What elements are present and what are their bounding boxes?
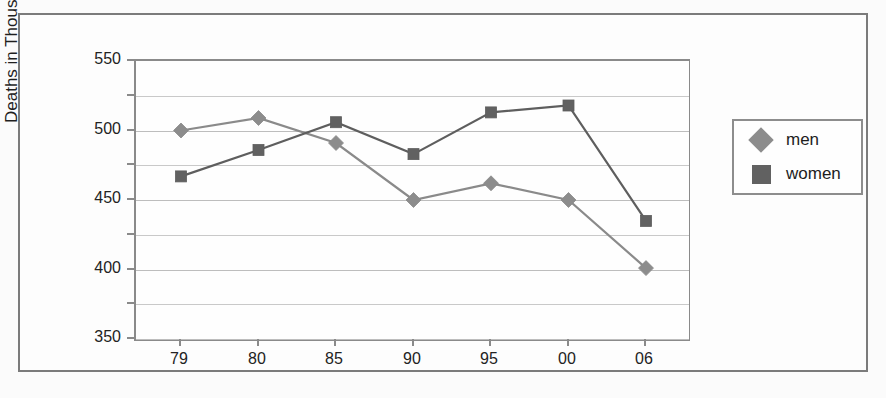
data-point-men (484, 176, 499, 191)
x-axis-tick (412, 339, 414, 346)
data-point-men (251, 111, 266, 126)
legend-item-men[interactable]: men (744, 125, 819, 155)
x-axis-tick (489, 339, 491, 346)
legend-item-women[interactable]: women (744, 159, 841, 189)
chart-legend: men women (732, 119, 863, 195)
data-point-women (563, 100, 574, 111)
data-point-women (176, 171, 187, 182)
plot-area (134, 59, 690, 341)
chart-screenshot: Deaths in Thousands 350400450500550 7980… (0, 0, 886, 398)
y-axis-title: Deaths in Thousands (2, 0, 22, 123)
y-axis-tick (127, 198, 134, 200)
legend-label-men: men (786, 130, 819, 150)
y-axis-tick (127, 302, 134, 304)
x-axis-tick (257, 339, 259, 346)
x-axis-tick (644, 339, 646, 346)
data-point-women (253, 145, 264, 156)
x-axis-tick-label: 00 (542, 351, 592, 367)
y-axis-tick (127, 94, 134, 96)
y-axis-tick-label: 500 (75, 121, 121, 137)
y-axis-tick (127, 337, 134, 339)
y-axis-tick-label: 550 (75, 51, 121, 67)
x-axis-tick-label: 79 (154, 351, 204, 367)
x-axis-tick-label: 90 (387, 351, 437, 367)
y-axis-tick-label: 450 (75, 190, 121, 206)
series-layer (136, 61, 689, 339)
chart-outer-frame: Deaths in Thousands 350400450500550 7980… (18, 13, 868, 372)
y-axis-tick (127, 233, 134, 235)
x-axis-tick-label: 85 (309, 351, 359, 367)
y-axis-tick-label: 350 (75, 329, 121, 345)
square-swatch-icon (744, 165, 778, 184)
data-point-men (174, 123, 189, 138)
y-axis-tick (127, 59, 134, 61)
data-point-women (486, 107, 497, 118)
data-point-men (329, 136, 344, 151)
y-axis-tick (127, 163, 134, 165)
y-axis-tick (127, 268, 134, 270)
x-axis-tick-label: 06 (619, 351, 669, 367)
x-axis-tick (567, 339, 569, 346)
y-axis-tick-label: 400 (75, 260, 121, 276)
x-axis-tick (179, 339, 181, 346)
data-point-women (408, 149, 419, 160)
data-point-women (331, 117, 342, 128)
x-axis-tick-label: 95 (464, 351, 514, 367)
data-point-men (406, 193, 421, 208)
y-axis-tick (127, 129, 134, 131)
legend-label-women: women (786, 164, 841, 184)
x-axis-tick (334, 339, 336, 346)
diamond-swatch-icon (744, 131, 778, 149)
data-point-women (641, 215, 652, 226)
x-axis-tick-label: 80 (232, 351, 282, 367)
